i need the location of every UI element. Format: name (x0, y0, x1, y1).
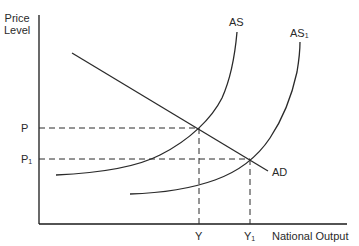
as-curve (56, 32, 237, 175)
tick-label-p1: P1 (21, 154, 32, 167)
y-axis-label-line2: Level (4, 24, 30, 36)
as1-label-main: AS (290, 27, 305, 39)
tick-label-y: Y (195, 231, 202, 242)
y-axis-label: Price Level (4, 12, 30, 36)
tick-label-y1: Y1 (244, 231, 255, 244)
ad-curve (72, 53, 268, 171)
y-axis-label-line1: Price (4, 12, 30, 24)
tick-label-p1-sub: 1 (28, 158, 32, 165)
x-axis-label: National Output (272, 231, 348, 242)
tick-label-p: P (21, 123, 28, 134)
tick-label-y1-sub: 1 (251, 235, 255, 242)
as1-label-sub: 1 (305, 32, 309, 39)
ad-label: AD (272, 167, 287, 178)
as-label: AS (229, 17, 244, 28)
as1-label: AS1 (290, 28, 309, 41)
